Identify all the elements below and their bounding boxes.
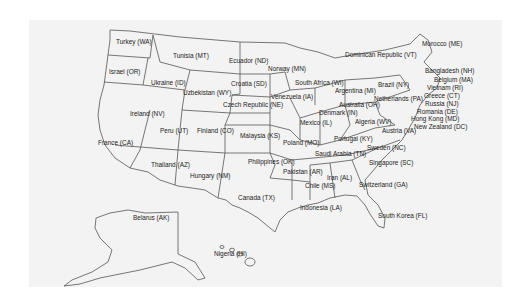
state-label-ms: Chile (MS) xyxy=(305,182,335,189)
state-label-sc: Singapore (SC) xyxy=(369,159,413,166)
state-label-wa: Turkey (WA) xyxy=(116,38,152,45)
state-label-or: Israel (OR) xyxy=(109,68,140,75)
state-label-il: Mexico (IL) xyxy=(300,119,332,126)
state-label-ri: Vietnam (RI) xyxy=(427,84,463,91)
state-label-dc: New Zealand (DC) xyxy=(414,123,467,130)
state-label-ar: Pakistan (AR) xyxy=(283,168,323,175)
state-label-nv: Ireland (NV) xyxy=(130,110,165,117)
state-label-nc: Sweden (NC) xyxy=(367,144,406,151)
state-label-tx: Canada (TX) xyxy=(238,194,275,201)
alaska-outline xyxy=(64,210,205,286)
state-label-ne: Czech Republic (NE) xyxy=(223,101,283,108)
state-label-ak: Belarus (AK) xyxy=(133,214,170,221)
state-label-md: Hong Kong (MD) xyxy=(411,115,459,122)
state-label-ny: Brazil (NY) xyxy=(378,81,409,88)
state-label-nj: Russia (NJ) xyxy=(425,100,459,107)
state-label-oh: Australia (OH) xyxy=(339,101,380,108)
state-label-ky: Portugal (KY) xyxy=(334,135,373,142)
state-label-mn: Norway (MN) xyxy=(268,65,306,72)
state-label-la: Indonesia (LA) xyxy=(300,204,342,211)
state-label-ma: Belgium (MA) xyxy=(434,76,473,83)
state-label-sd: Croatia (SD) xyxy=(231,80,267,87)
state-label-ks: Malaysia (KS) xyxy=(240,132,280,139)
state-label-nm: Hungary (NM) xyxy=(190,172,230,179)
state-label-mt: Tunisia (MT) xyxy=(173,52,209,59)
state-label-fl: South Korea (FL) xyxy=(378,212,427,219)
state-label-mi: Argentina (MI) xyxy=(335,87,376,94)
state-label-id: Ukraine (ID) xyxy=(151,79,186,86)
state-label-ca: France (CA) xyxy=(98,139,133,146)
state-label-co: Finland (CO) xyxy=(197,127,234,134)
state-label-al: Iran (AL) xyxy=(327,174,352,181)
state-label-az: Thailand (AZ) xyxy=(151,161,190,168)
state-label-ct: Greece (CT) xyxy=(424,92,460,99)
state-label-ia: Venezuela (IA) xyxy=(271,93,313,100)
state-label-wi: South Africa (WI) xyxy=(295,79,344,86)
state-label-va: Austria (VA) xyxy=(382,127,416,134)
state-label-tn: Saudi Arabia (TN) xyxy=(315,150,366,157)
state-label-hi: Nigeria (HI) xyxy=(214,250,247,257)
state-label-ga: Switzerland (GA) xyxy=(359,181,408,188)
state-label-ok: Philippines (OK) xyxy=(248,158,295,165)
state-label-nd: Ecuador (ND) xyxy=(229,57,268,64)
state-label-vt: Dominican Republic (VT) xyxy=(345,51,417,58)
state-label-nh: Bangladesh (NH) xyxy=(425,67,474,74)
state-label-pa: Netherlands (PA) xyxy=(374,95,423,102)
state-label-de: Romania (DE) xyxy=(417,108,458,115)
state-label-wv: Algeria (WV) xyxy=(355,118,392,125)
state-label-me: Morocco (ME) xyxy=(422,40,462,47)
state-label-wy: Uzbekistan (WY) xyxy=(183,89,231,96)
state-label-in: Denmark (IN) xyxy=(319,109,358,116)
state-label-ut: Peru (UT) xyxy=(160,127,188,134)
state-label-mo: Poland (MO) xyxy=(283,139,320,146)
